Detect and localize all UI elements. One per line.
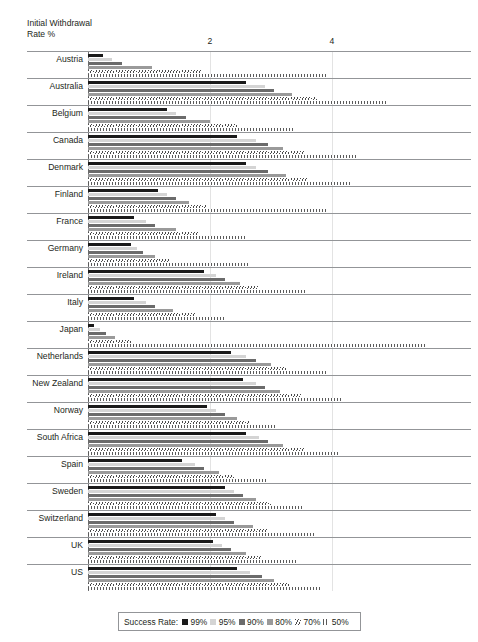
bar-80pct [88,201,189,204]
bar-90pct [88,170,268,173]
bar-99pct [88,513,216,516]
legend-label: 90% [247,617,264,627]
bar-80pct [88,174,286,177]
bar-group-row: Austria [0,51,478,78]
legend-item-95pct[interactable]: 95% [210,617,235,627]
bar-80pct [88,552,246,555]
bar-50pct [88,317,225,320]
bar-50pct [88,533,314,536]
bar-95pct [88,355,246,358]
bar-70pct [88,259,170,262]
bar-70pct [88,151,304,154]
bar-70pct [88,556,262,559]
bar-99pct [88,297,134,300]
bar-group [88,376,478,402]
bar-70pct [88,313,195,316]
bar-group [88,106,478,132]
bar-80pct [88,255,155,258]
bar-80pct [88,363,271,366]
bar-99pct [88,216,134,219]
legend-item-50pct[interactable]: 50% [323,617,348,627]
bar-70pct [88,583,289,586]
bar-group [88,295,478,321]
legend-label: 95% [219,617,236,627]
bar-99pct [88,135,237,138]
bar-99pct [88,81,246,84]
bar-90pct [88,332,106,335]
legend-item-90pct[interactable]: 90% [239,617,264,627]
legend-title: Success Rate: [124,617,178,627]
bar-group [88,79,478,105]
bar-80pct [88,444,283,447]
legend-label: 50% [332,617,349,627]
bar-group-row: Sweden [0,483,478,510]
bar-group [88,457,478,483]
bar-80pct [88,471,219,474]
bar-70pct [88,421,250,424]
bar-70pct [88,340,131,343]
category-label: Italy [27,297,83,308]
bar-80pct [88,525,253,528]
bar-group [88,511,478,537]
legend-swatch-icon [182,619,188,625]
bar-group-row: France [0,213,478,240]
category-label: Japan [27,324,83,335]
bar-group-row: Italy [0,294,478,321]
legend-item-99pct[interactable]: 99% [182,617,207,627]
legend: Success Rate: 99%95%90%80%70%50% [118,612,361,631]
legend-item-80pct[interactable]: 80% [267,617,292,627]
bar-70pct [88,232,198,235]
legend-label: 80% [275,617,292,627]
category-label: Netherlands [27,351,83,362]
bar-99pct [88,378,243,381]
legend-swatch-icon [323,619,329,625]
bar-99pct [88,540,213,543]
bar-90pct [88,89,274,92]
bar-90pct [88,521,234,524]
bar-group [88,430,478,456]
bar-50pct [88,425,277,428]
bar-70pct [88,124,237,127]
bar-90pct [88,359,256,362]
bar-50pct [88,209,326,212]
bar-99pct [88,432,246,435]
bar-group [88,565,478,591]
bar-50pct [88,371,326,374]
category-label: Austria [27,54,83,65]
bar-80pct [88,93,292,96]
bar-80pct [88,66,152,69]
bar-50pct [88,101,387,104]
bar-70pct [88,97,317,100]
category-label: Australia [27,81,83,92]
bar-95pct [88,382,256,385]
category-label: France [27,216,83,227]
bar-80pct [88,336,115,339]
bar-group-row: Finland [0,186,478,213]
bar-95pct [88,112,176,115]
bar-group-row: Switzerland [0,510,478,537]
bar-50pct [88,155,356,158]
bar-50pct [88,452,338,455]
legend-swatch-icon [239,619,245,625]
bar-group [88,403,478,429]
bar-80pct [88,309,173,312]
bar-99pct [88,189,158,192]
bar-99pct [88,270,204,273]
bar-group-row: UK [0,537,478,564]
bar-group-row: South Africa [0,429,478,456]
legend-label: 70% [304,617,321,627]
bar-50pct [88,236,246,239]
bar-group-row: Australia [0,78,478,105]
legend-item-70pct[interactable]: 70% [295,617,320,627]
bar-50pct [88,587,320,590]
bar-group [88,241,478,267]
bar-90pct [88,548,231,551]
category-label: Spain [27,459,83,470]
bar-50pct [88,560,298,563]
bar-70pct [88,286,259,289]
bar-90pct [88,386,265,389]
bar-group [88,214,478,240]
bar-group [88,52,478,78]
category-label: Denmark [27,162,83,173]
bar-group-row: Spain [0,456,478,483]
